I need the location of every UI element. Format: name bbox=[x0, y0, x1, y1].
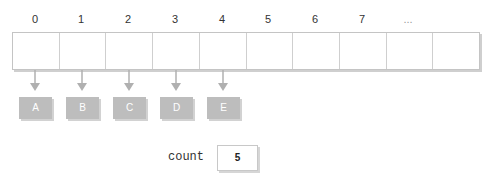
index-label-2: 2 bbox=[105, 13, 151, 25]
array-cell-0 bbox=[13, 33, 60, 69]
index-label-6: 6 bbox=[292, 13, 338, 25]
node-a: A bbox=[19, 97, 52, 119]
node-e: E bbox=[207, 97, 240, 119]
array-cells bbox=[12, 32, 480, 70]
arrow-down-icon bbox=[170, 70, 182, 92]
array-cell-5 bbox=[247, 33, 294, 69]
index-label-0: 0 bbox=[12, 13, 58, 25]
array-cell-2 bbox=[106, 33, 153, 69]
node-b: B bbox=[66, 97, 99, 119]
index-label-7: 7 bbox=[339, 13, 385, 25]
arrow-down-icon bbox=[123, 70, 135, 92]
node-c: C bbox=[113, 97, 146, 119]
array-cell-9 bbox=[433, 33, 479, 69]
arrow-down-icon bbox=[29, 70, 41, 92]
array-cell-8 bbox=[387, 33, 434, 69]
array-cell-4 bbox=[200, 33, 247, 69]
index-label-3: 3 bbox=[152, 13, 198, 25]
array-cell-6 bbox=[293, 33, 340, 69]
node-d: D bbox=[160, 97, 193, 119]
index-label-4: 4 bbox=[199, 13, 245, 25]
array-cell-7 bbox=[340, 33, 387, 69]
index-label-5: 5 bbox=[245, 13, 291, 25]
array-cell-3 bbox=[153, 33, 200, 69]
index-label-ellipsis: ... bbox=[385, 13, 431, 25]
arrow-down-icon bbox=[217, 70, 229, 92]
count-value: 5 bbox=[217, 145, 258, 171]
array-cell-1 bbox=[60, 33, 107, 69]
count-label: count bbox=[168, 150, 204, 164]
arrow-down-icon bbox=[76, 70, 88, 92]
index-label-1: 1 bbox=[58, 13, 104, 25]
